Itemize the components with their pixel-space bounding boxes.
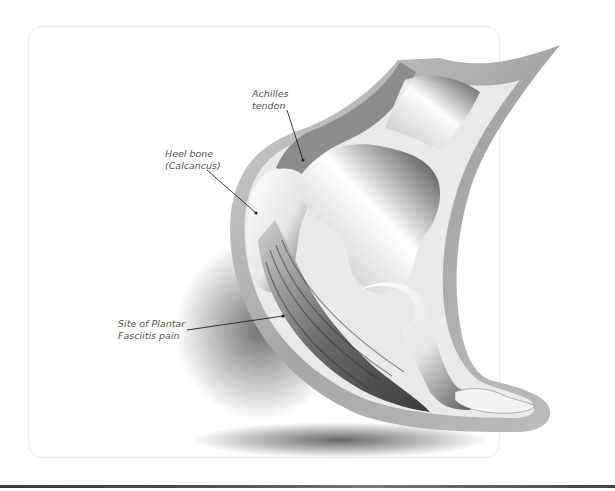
bottom-divider [0, 485, 615, 488]
label-achilles-tendon: Achilles tendon [252, 88, 288, 112]
label-plantar-line2: Fasciitis pain [118, 330, 185, 342]
label-heel-bone: Heel bone (Calcancus) [165, 148, 221, 172]
label-achilles-line2: tendon [252, 100, 288, 112]
label-plantar-fasciitis: Site of Plantar Fasciitis pain [118, 318, 185, 342]
label-plantar-line1: Site of Plantar [118, 318, 185, 330]
label-achilles-line1: Achilles [252, 88, 288, 100]
label-heel-line2: (Calcancus) [165, 160, 221, 172]
label-heel-line1: Heel bone [165, 148, 221, 160]
foot-illustration [0, 0, 615, 491]
